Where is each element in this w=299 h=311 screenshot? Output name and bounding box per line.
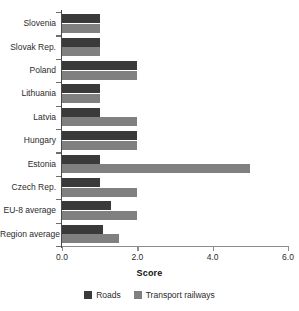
bar-eu-8-average-roads xyxy=(62,201,111,210)
bar-slovak-rep-roads xyxy=(62,38,100,47)
category-label-czech-rep: Czech Rep. xyxy=(0,182,56,192)
legend-item-transport-railways[interactable]: Transport railways xyxy=(134,290,215,300)
category-label-lithuania: Lithuania xyxy=(0,88,56,98)
bar-slovenia-transport-railways xyxy=(62,24,100,33)
horizontal-bar-chart: SloveniaSlovak Rep.PolandLithuaniaLatvia… xyxy=(0,0,299,311)
x-axis-tick xyxy=(137,246,138,251)
y-axis-tick xyxy=(56,199,61,200)
category-label-poland: Poland xyxy=(0,65,56,75)
bar-slovak-rep-transport-railways xyxy=(62,47,100,56)
y-axis-tick xyxy=(56,82,61,83)
bar-hungary-roads xyxy=(62,131,137,140)
x-axis-tick xyxy=(213,246,214,251)
x-axis-title: Score xyxy=(0,268,299,278)
bar-region-average-roads xyxy=(62,225,103,234)
y-axis-tick xyxy=(56,106,61,107)
y-axis-tick xyxy=(56,223,61,224)
legend-swatch-icon xyxy=(84,291,92,299)
bar-latvia-roads xyxy=(62,108,100,117)
legend-item-roads[interactable]: Roads xyxy=(84,290,121,300)
bar-slovenia-roads xyxy=(62,14,100,23)
x-axis-tick-label: 0.0 xyxy=(47,252,77,262)
category-label-hungary: Hungary xyxy=(0,135,56,145)
bar-poland-roads xyxy=(62,61,137,70)
category-label-region-average: Region average xyxy=(0,229,56,239)
y-axis-tick xyxy=(56,59,61,60)
category-label-latvia: Latvia xyxy=(0,112,56,122)
y-axis-tick xyxy=(56,152,61,153)
x-axis-tick xyxy=(288,246,289,251)
bar-lithuania-transport-railways xyxy=(62,94,100,103)
x-axis-tick-label: 6.0 xyxy=(273,252,299,262)
bar-poland-transport-railways xyxy=(62,71,137,80)
category-label-eu-8-average: EU-8 average xyxy=(0,205,56,215)
x-axis-tick-label: 4.0 xyxy=(198,252,228,262)
y-axis-tick xyxy=(56,176,61,177)
legend-swatch-icon xyxy=(134,291,142,299)
x-axis-tick xyxy=(62,246,63,251)
category-label-slovenia: Slovenia xyxy=(0,18,56,28)
bar-estonia-roads xyxy=(62,155,100,164)
x-axis-tick-label: 2.0 xyxy=(122,252,152,262)
bar-lithuania-roads xyxy=(62,84,100,93)
category-label-slovak-rep: Slovak Rep. xyxy=(0,42,56,52)
bar-estonia-transport-railways xyxy=(62,164,250,173)
legend-label: Roads xyxy=(96,290,121,300)
bar-eu-8-average-transport-railways xyxy=(62,211,137,220)
y-axis-tick xyxy=(56,129,61,130)
y-axis-tick xyxy=(56,35,61,36)
y-axis-tick xyxy=(56,246,61,247)
category-label-estonia: Estonia xyxy=(0,159,56,169)
bar-region-average-transport-railways xyxy=(62,234,119,243)
bar-hungary-transport-railways xyxy=(62,141,137,150)
x-axis-line xyxy=(62,246,289,247)
plot-area xyxy=(62,12,288,246)
bar-czech-rep-transport-railways xyxy=(62,188,137,197)
y-axis-tick xyxy=(56,12,61,13)
chart-legend: RoadsTransport railways xyxy=(0,290,299,300)
bar-latvia-transport-railways xyxy=(62,117,137,126)
legend-label: Transport railways xyxy=(146,290,215,300)
bar-czech-rep-roads xyxy=(62,178,100,187)
